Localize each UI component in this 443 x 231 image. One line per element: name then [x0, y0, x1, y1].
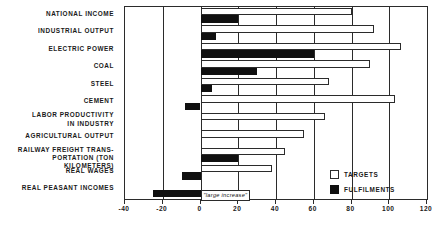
category-label-1: INDUSTRIAL OUTPUT [38, 27, 114, 35]
x-tick-100 [388, 200, 389, 204]
x-tick-60 [313, 200, 314, 204]
bar-fulfilment-8 [201, 155, 239, 162]
bar-fulfilment-3 [201, 68, 258, 75]
bar-target-4 [201, 78, 329, 85]
x-tick-label-20: 20 [233, 205, 241, 212]
gridline-60 [314, 7, 315, 199]
category-label-5: CEMENT [84, 97, 114, 105]
category-label-2: ELECTRIC POWER [48, 45, 114, 53]
gridline--20 [163, 7, 164, 199]
gridline-40 [276, 7, 277, 199]
bar-target-5 [201, 95, 395, 102]
category-label-6: LABOR PRODUCTIVITY IN INDUSTRY [32, 110, 114, 126]
bar-target-6 [201, 113, 326, 120]
x-tick-label-60: 60 [309, 205, 317, 212]
category-label-4: STEEL [91, 79, 114, 87]
bar-target-1 [201, 25, 375, 32]
chart-legend: TARGETS FULFILMENTS [330, 168, 395, 198]
legend-label-targets: TARGETS [344, 171, 378, 178]
bar-fulfilment-2 [201, 50, 314, 57]
x-tick-80 [351, 200, 352, 204]
bar-target-9 [201, 165, 273, 172]
bar-fulfilment-0 [201, 15, 239, 22]
bar-target-2 [201, 43, 401, 50]
bar-fulfilment-4 [201, 85, 212, 92]
x-tick-label-100: 100 [382, 205, 395, 212]
x-tick--20 [162, 200, 163, 204]
x-tick-120 [426, 200, 427, 204]
category-label-3: COAL [94, 62, 114, 70]
legend-item-targets: TARGETS [330, 168, 395, 180]
gridline-120 [427, 7, 428, 199]
category-label-10: REAL PEASANT INCOMES [22, 184, 114, 192]
x-tick-label--20: -20 [156, 205, 167, 212]
x-tick-label-0: 0 [197, 205, 201, 212]
x-tick-20 [237, 200, 238, 204]
x-tick-label-120: 120 [420, 205, 433, 212]
legend-label-fulfilments: FULFILMENTS [344, 186, 395, 193]
category-label-0: NATIONAL INCOME [46, 10, 114, 18]
legend-swatch-targets-icon [330, 170, 339, 179]
x-tick-40 [275, 200, 276, 204]
category-label-9: REAL WAGES [66, 167, 114, 175]
category-label-column: NATIONAL INCOMEINDUSTRIAL OUTPUTELECTRIC… [0, 0, 122, 200]
category-label-7: AGRICULTURAL OUTPUT [25, 132, 114, 140]
bar-target-7 [201, 130, 305, 137]
bar-target-0 [201, 8, 352, 15]
bar-fulfilment-1 [201, 33, 216, 40]
bar-target-3 [201, 60, 371, 67]
bar-fulfilment-10 [153, 190, 200, 197]
x-tick-label--40: -40 [118, 205, 129, 212]
bar-target-8 [201, 148, 286, 155]
bar-fulfilment-9 [182, 172, 201, 179]
x-tick-label-80: 80 [346, 205, 354, 212]
legend-swatch-fulfilments-icon [330, 185, 339, 194]
bar-chart: NATIONAL INCOMEINDUSTRIAL OUTPUTELECTRIC… [0, 0, 443, 231]
x-tick-label-40: 40 [271, 205, 279, 212]
x-tick-0 [200, 200, 201, 204]
bar-fulfilment-5 [185, 103, 200, 110]
legend-item-fulfilments: FULFILMENTS [330, 183, 395, 195]
x-axis: -40-20020406080100120 [124, 200, 428, 222]
x-tick--40 [124, 200, 125, 204]
